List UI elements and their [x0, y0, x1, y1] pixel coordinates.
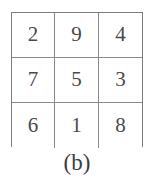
figure-magic-square: 2 9 4 7 5 3 6 1 8 (b) — [0, 0, 154, 185]
grid-cell-r0c2: 4 — [99, 13, 142, 58]
grid-cell-r2c2: 8 — [99, 103, 142, 148]
cell-value: 1 — [71, 115, 82, 137]
grid-cell-r2c1: 1 — [55, 103, 99, 148]
grid-cell-r1c2: 3 — [99, 58, 142, 103]
magic-square-grid: 2 9 4 7 5 3 6 1 8 — [11, 12, 143, 147]
cell-value: 8 — [115, 115, 126, 137]
cell-value: 2 — [28, 24, 39, 46]
grid-cell-r2c0: 6 — [12, 103, 55, 148]
cell-value: 6 — [28, 115, 39, 137]
cell-value: 3 — [115, 69, 126, 91]
cell-value: 5 — [71, 69, 82, 91]
figure-caption: (b) — [0, 150, 154, 176]
grid-cell-r1c0: 7 — [12, 58, 55, 103]
cell-value: 4 — [115, 24, 126, 46]
cell-value: 7 — [28, 69, 39, 91]
grid-cell-r1c1: 5 — [55, 58, 99, 103]
cell-value: 9 — [71, 24, 82, 46]
grid-cell-r0c1: 9 — [55, 13, 99, 58]
grid-cell-r0c0: 2 — [12, 13, 55, 58]
